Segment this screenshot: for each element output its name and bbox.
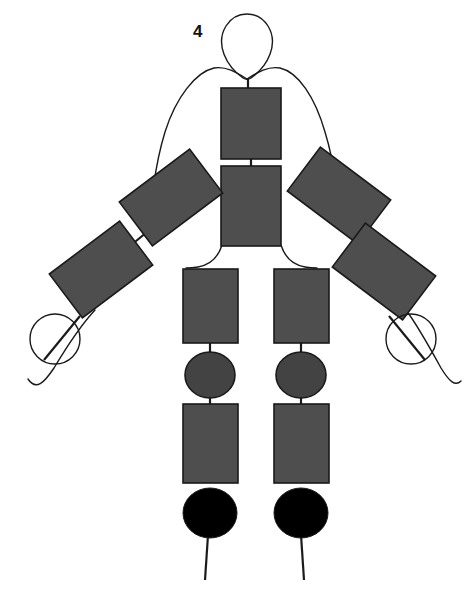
limb-segment-group xyxy=(49,88,435,483)
foot-group xyxy=(183,488,328,538)
right-hand-stick xyxy=(389,316,425,360)
figure-canvas: 4 xyxy=(0,0,464,599)
segment-left-forearm xyxy=(49,221,152,318)
segment-right-upper-arm xyxy=(287,147,390,244)
segment-right-shin xyxy=(274,404,329,483)
hand-right-hand xyxy=(386,314,436,364)
knee-joint-group xyxy=(185,352,326,398)
foot-left-foot xyxy=(183,488,237,538)
segment-lower-torso xyxy=(221,166,281,246)
joint-right-knee xyxy=(276,352,326,398)
segment-left-upper-arm xyxy=(119,149,222,246)
figure-number-label: 4 xyxy=(193,23,202,40)
segment-right-forearm xyxy=(332,223,435,320)
foot-right-foot xyxy=(274,488,328,538)
schematic-figure-drawing xyxy=(0,0,464,599)
right-hip-contour-path xyxy=(281,245,317,268)
segment-right-thigh xyxy=(274,269,329,343)
segment-left-shin xyxy=(183,404,238,483)
segment-left-thigh xyxy=(183,269,238,343)
left-hip-contour-path xyxy=(186,245,222,268)
joint-left-knee xyxy=(185,352,235,398)
segment-upper-torso xyxy=(221,88,281,159)
